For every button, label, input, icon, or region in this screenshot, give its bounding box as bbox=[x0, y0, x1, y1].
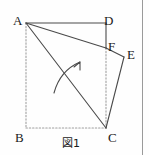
figure-caption: 図1 bbox=[62, 138, 80, 149]
edge-AF bbox=[26, 23, 106, 48]
vertex-label-E: E bbox=[127, 48, 135, 61]
edge-EC bbox=[106, 57, 124, 128]
vertex-label-C: C bbox=[108, 131, 117, 144]
figure-container: A B C D E F 図1 bbox=[0, 0, 149, 155]
vertex-label-B: B bbox=[15, 131, 24, 144]
vertex-label-D: D bbox=[104, 14, 113, 27]
page-rule bbox=[142, 0, 143, 155]
vertex-label-A: A bbox=[13, 14, 22, 27]
edge-AC bbox=[26, 23, 106, 128]
vertex-label-F: F bbox=[108, 40, 115, 53]
